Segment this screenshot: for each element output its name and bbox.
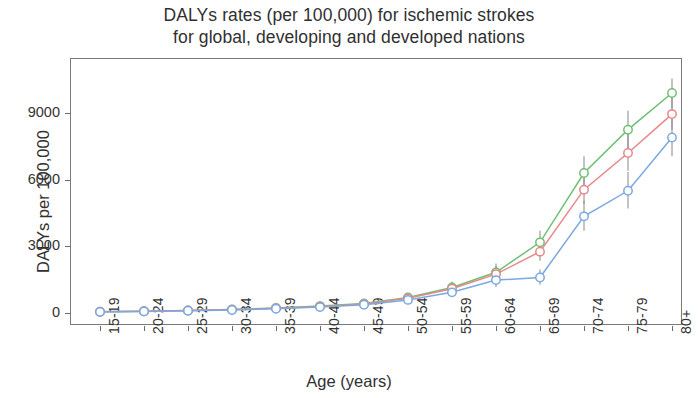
data-point [492, 276, 500, 284]
error-bar-group [276, 79, 672, 309]
data-point [272, 305, 280, 313]
data-point [668, 133, 676, 141]
data-point [184, 307, 192, 315]
series-layer [0, 0, 698, 398]
data-point [668, 110, 676, 118]
data-point [668, 89, 676, 97]
data-point [404, 296, 412, 304]
data-point [316, 303, 324, 311]
data-point [624, 149, 632, 157]
data-point [580, 169, 588, 177]
data-point [360, 301, 368, 309]
data-point [580, 185, 588, 193]
data-point [536, 238, 544, 246]
data-point [448, 288, 456, 296]
data-point [228, 306, 236, 314]
series-markers-developing [96, 89, 676, 316]
data-point [140, 307, 148, 315]
data-point [536, 247, 544, 255]
data-point [96, 308, 104, 316]
data-point [536, 273, 544, 281]
data-point [624, 125, 632, 133]
series-line-developed [100, 137, 672, 311]
data-point [580, 212, 588, 220]
data-point [624, 187, 632, 195]
series-markers-developed [96, 133, 676, 316]
chart-figure: DALYs rates (per 100,000) for ischemic s… [0, 0, 698, 398]
series-line-developing [100, 93, 672, 312]
